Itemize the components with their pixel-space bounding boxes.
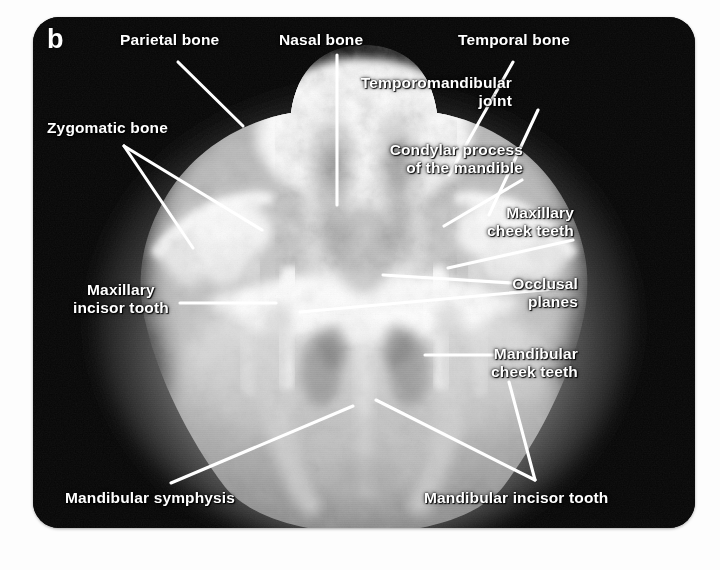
annotation-label-mandibular-symphysis: Mandibular symphysis [65, 489, 235, 507]
annotation-label-temporal-bone: Temporal bone [458, 31, 570, 49]
annotation-label-mandibular-incisor-tooth: Mandibular incisor tooth [424, 489, 608, 507]
radiograph-figure: b Parietal boneNasal boneTemporal boneTe… [0, 0, 720, 570]
panel-letter: b [47, 26, 64, 53]
annotation-label-maxillary-incisor-tooth: Maxillary incisor tooth [73, 281, 169, 317]
annotation-label-mandibular-cheek-teeth: Mandibular cheek teeth [491, 345, 578, 381]
annotation-label-condylar-process-of-the-mandible: Condylar process of the mandible [390, 141, 523, 177]
annotation-label-zygomatic-bone: Zygomatic bone [47, 119, 168, 137]
annotation-label-occlusal-planes: Occlusal planes [512, 275, 578, 311]
annotation-label-parietal-bone: Parietal bone [120, 31, 219, 49]
annotation-label-temporomandibular-joint: Temporomandibular joint [361, 74, 512, 110]
annotation-label-maxillary-cheek-teeth: Maxillary cheek teeth [487, 204, 574, 240]
annotation-label-nasal-bone: Nasal bone [279, 31, 363, 49]
